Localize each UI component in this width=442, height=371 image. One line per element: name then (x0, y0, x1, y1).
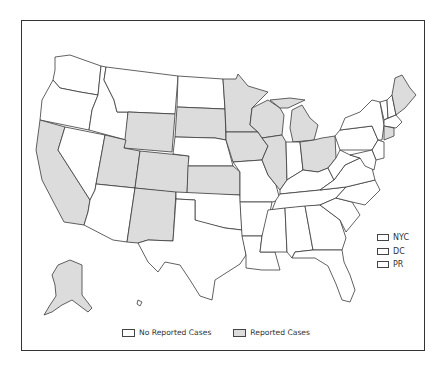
state-nd[interactable] (177, 76, 225, 109)
legend-label: Reported Cases (250, 328, 310, 337)
territory-nyc: NYC (377, 231, 409, 244)
state-fl[interactable] (292, 250, 355, 302)
territory-label: NYC (393, 233, 409, 242)
territory-label: PR (393, 260, 403, 269)
legend-swatch-dc (377, 248, 389, 255)
state-wy[interactable] (124, 112, 175, 152)
legend-swatch-gray (233, 329, 246, 337)
territory-legend: NYC DC PR (377, 231, 409, 272)
legend-swatch-nyc (377, 234, 389, 241)
legend-swatch-pr (377, 261, 389, 268)
state-hi[interactable] (137, 300, 142, 306)
territory-label: DC (393, 247, 405, 256)
state-me[interactable] (392, 75, 416, 115)
state-ks[interactable] (187, 166, 240, 195)
state-co[interactable] (135, 151, 189, 194)
state-sd[interactable] (175, 107, 226, 140)
state-ct[interactable] (384, 126, 394, 140)
legend-item-no-reported: No Reported Cases (122, 328, 211, 337)
us-map (0, 0, 442, 371)
map-legend: No Reported Cases Reported Cases (122, 328, 332, 337)
legend-label: No Reported Cases (139, 328, 211, 337)
territory-dc: DC (377, 245, 409, 258)
legend-item-reported: Reported Cases (233, 328, 310, 337)
state-ak[interactable] (44, 260, 92, 315)
state-nm[interactable] (127, 188, 176, 243)
legend-swatch-white (122, 329, 135, 337)
territory-pr: PR (377, 258, 409, 271)
